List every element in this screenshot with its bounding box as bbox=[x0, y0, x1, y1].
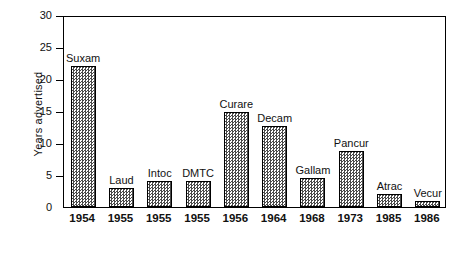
bar[interactable] bbox=[224, 112, 249, 207]
y-axis-tick-label-text: 20 bbox=[30, 74, 52, 85]
bar[interactable] bbox=[186, 181, 211, 207]
bar-label: DMTC bbox=[182, 167, 214, 179]
x-axis-tick-label: 1973 bbox=[331, 211, 369, 225]
bar-group[interactable]: Suxam bbox=[64, 15, 102, 207]
bar[interactable] bbox=[300, 178, 325, 207]
x-axis-tick-label: 1955 bbox=[140, 211, 178, 225]
bar-group[interactable]: Curare bbox=[217, 15, 255, 207]
bar[interactable] bbox=[109, 188, 134, 207]
bar-label: Decam bbox=[257, 112, 292, 124]
y-axis-tick-label-text: 30 bbox=[30, 10, 52, 21]
y-axis-tick-label: 5 bbox=[26, 170, 52, 181]
x-axis-tick-labels: 1954195519551955195619641968197319851986 bbox=[63, 211, 446, 229]
bar-label: Gallam bbox=[296, 164, 331, 176]
bar-label: Atrac bbox=[377, 180, 403, 192]
y-axis-tick-label: 25 bbox=[26, 42, 52, 53]
bar-group[interactable]: Intoc bbox=[141, 15, 179, 207]
bar[interactable] bbox=[415, 201, 440, 207]
bar[interactable] bbox=[71, 66, 96, 207]
x-axis-tick-label: 1968 bbox=[293, 211, 331, 225]
bar-label: Intoc bbox=[148, 167, 172, 179]
bar-group[interactable]: Decam bbox=[256, 15, 294, 207]
y-axis-tick bbox=[56, 112, 64, 113]
y-axis-tick-label: 15 bbox=[26, 106, 52, 117]
bar-label: Pancur bbox=[334, 137, 369, 149]
bar[interactable] bbox=[147, 181, 172, 207]
y-axis-tick bbox=[56, 144, 64, 145]
bar[interactable] bbox=[339, 151, 364, 207]
x-axis-tick-label: 1985 bbox=[369, 211, 407, 225]
x-axis-tick-label: 1955 bbox=[178, 211, 216, 225]
x-axis-tick-label: 1956 bbox=[216, 211, 254, 225]
y-axis-tick-label-text: 5 bbox=[30, 170, 52, 181]
bar-group[interactable]: Gallam bbox=[294, 15, 332, 207]
bar-group[interactable]: Pancur bbox=[332, 15, 370, 207]
bar-chart-figure: Years advertised SuxamLaudIntocDMTCCurar… bbox=[0, 0, 470, 261]
y-axis-tick bbox=[56, 80, 64, 81]
bar-label: Curare bbox=[220, 98, 254, 110]
y-axis-tick-label-text: 25 bbox=[30, 42, 52, 53]
bar[interactable] bbox=[377, 194, 402, 207]
y-axis-tick bbox=[56, 48, 64, 49]
plot-area: SuxamLaudIntocDMTCCurareDecamGallamPancu… bbox=[63, 16, 446, 208]
y-axis-tick-label-text: 0 bbox=[30, 202, 52, 213]
bar-label: Vecur bbox=[414, 187, 442, 199]
y-axis-tick-label: 0 bbox=[26, 202, 52, 213]
bar-label: Laud bbox=[109, 174, 133, 186]
y-axis-tick bbox=[56, 176, 64, 177]
y-axis-tick bbox=[56, 16, 64, 17]
bar-label: Suxam bbox=[66, 52, 100, 64]
bar-group[interactable]: Vecur bbox=[409, 15, 447, 207]
x-axis-tick-label: 1986 bbox=[408, 211, 446, 225]
y-axis-tick-label: 20 bbox=[26, 74, 52, 85]
x-axis-tick-label: 1955 bbox=[101, 211, 139, 225]
bar-group[interactable]: DMTC bbox=[179, 15, 217, 207]
y-axis-tick-label-text: 10 bbox=[30, 138, 52, 149]
x-axis-tick-label: 1954 bbox=[63, 211, 101, 225]
y-axis-tick-label: 10 bbox=[26, 138, 52, 149]
y-axis-tick-label-text: 15 bbox=[30, 106, 52, 117]
x-axis-tick-label: 1964 bbox=[255, 211, 293, 225]
bar[interactable] bbox=[262, 126, 287, 207]
bar-group[interactable]: Laud bbox=[102, 15, 140, 207]
bar-group[interactable]: Atrac bbox=[370, 15, 408, 207]
y-axis-tick-label: 30 bbox=[26, 10, 52, 21]
